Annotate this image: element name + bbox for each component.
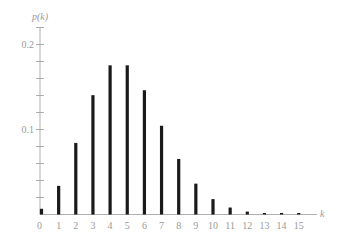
y-axis: 0.10.2 bbox=[22, 27, 45, 215]
x-tick-label: 13 bbox=[259, 220, 269, 231]
bar-k-13 bbox=[263, 213, 266, 215]
poisson-bar-chart: 0.10.2 0123456789101112131415 p(k) k bbox=[0, 0, 341, 243]
y-tick-label: 0.2 bbox=[22, 39, 35, 50]
x-tick-label: 15 bbox=[294, 220, 304, 231]
x-tick-label: 12 bbox=[242, 220, 252, 231]
x-axis: 0123456789101112131415 bbox=[37, 215, 317, 232]
bar-k-1 bbox=[57, 186, 60, 215]
bar-k-9 bbox=[194, 184, 197, 215]
x-axis-label: k bbox=[320, 208, 325, 219]
bar-k-3 bbox=[91, 95, 94, 214]
bar-k-4 bbox=[109, 65, 112, 214]
x-tick-label: 11 bbox=[225, 220, 235, 231]
x-tick-label: 9 bbox=[193, 220, 198, 231]
bar-k-14 bbox=[280, 213, 283, 215]
bars bbox=[40, 65, 300, 214]
x-tick-label: 2 bbox=[73, 220, 78, 231]
x-tick-label: 3 bbox=[90, 220, 95, 231]
x-tick-label: 0 bbox=[37, 220, 42, 231]
bar-k-8 bbox=[177, 159, 180, 215]
y-tick-label: 0.1 bbox=[22, 124, 35, 135]
x-tick-label: 7 bbox=[159, 220, 164, 231]
bar-k-10 bbox=[211, 199, 214, 214]
bar-k-0 bbox=[40, 209, 43, 215]
bar-k-2 bbox=[74, 143, 77, 215]
y-axis-label: p(k) bbox=[31, 11, 49, 23]
x-tick-label: 5 bbox=[125, 220, 130, 231]
x-tick-label: 6 bbox=[142, 220, 147, 231]
bar-k-7 bbox=[160, 126, 163, 215]
x-tick-label: 10 bbox=[208, 220, 218, 231]
bar-k-12 bbox=[246, 212, 249, 215]
bar-k-6 bbox=[143, 90, 146, 214]
bar-k-5 bbox=[126, 65, 129, 214]
x-tick-label: 1 bbox=[56, 220, 61, 231]
x-tick-label: 4 bbox=[108, 220, 113, 231]
x-tick-label: 14 bbox=[277, 220, 287, 231]
bar-k-15 bbox=[297, 213, 300, 215]
bar-k-11 bbox=[229, 208, 232, 215]
x-tick-label: 8 bbox=[176, 220, 181, 231]
